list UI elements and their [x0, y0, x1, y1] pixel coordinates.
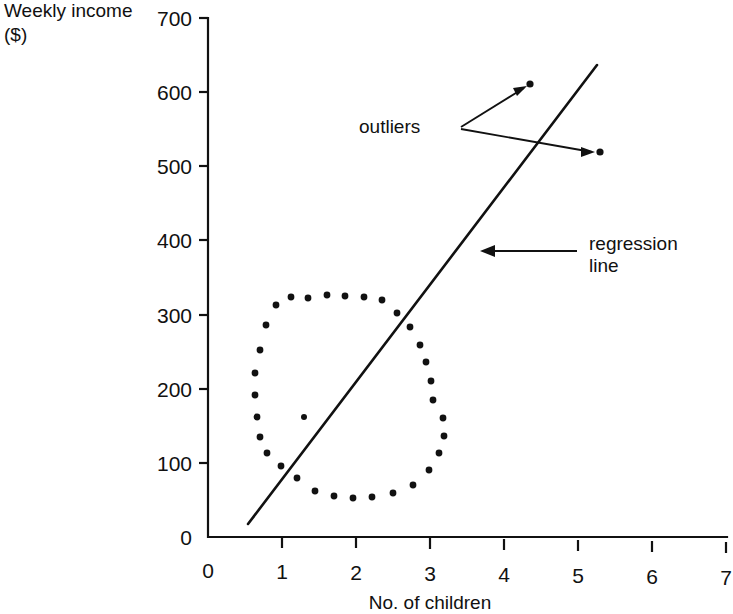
regression-line-arrowhead	[480, 245, 495, 257]
data-point	[394, 310, 401, 317]
data-point	[252, 392, 259, 399]
outliers-annotation: outliers	[359, 86, 595, 157]
data-point	[264, 450, 271, 457]
data-point	[390, 490, 397, 497]
data-point	[342, 293, 349, 300]
data-point	[426, 467, 433, 474]
y-tick-label-400: 400	[157, 229, 192, 252]
data-point	[254, 414, 261, 421]
x-axis-tick-labels: 0 1 2 3 4 5 6 7	[202, 559, 732, 589]
data-point	[263, 322, 270, 329]
y-tick-label-0: 0	[180, 526, 192, 549]
y-tick-label-100: 100	[157, 452, 192, 475]
axes-group	[208, 18, 727, 537]
data-point	[257, 347, 264, 354]
outliers-leader-lower	[461, 129, 592, 152]
x-tick-label-2: 2	[350, 561, 362, 584]
y-axis-title-line2: ($)	[4, 24, 27, 45]
data-point	[301, 414, 307, 420]
y-tick-label-300: 300	[157, 304, 192, 327]
data-point	[324, 292, 331, 299]
outliers-annotation-label: outliers	[359, 116, 420, 137]
data-point	[361, 294, 368, 301]
y-axis-ticks	[199, 18, 208, 463]
regression-line-label-line2: line	[589, 255, 619, 276]
data-point	[288, 294, 295, 301]
data-point	[417, 342, 424, 349]
y-axis-tick-labels: 700 600 500 400 300 200 100 0	[157, 7, 192, 549]
data-point	[312, 488, 319, 495]
chart-figure: 700 600 500 400 300 200 100 0 0 1 2 3 4 …	[0, 0, 733, 614]
x-axis-ticks	[282, 537, 726, 553]
x-axis-title: No. of children	[369, 592, 492, 613]
data-point	[410, 482, 417, 489]
x-tick-label-6: 6	[646, 565, 658, 588]
data-point	[369, 494, 376, 501]
data-point	[430, 397, 437, 404]
cluster-points-group	[252, 292, 448, 502]
x-tick-label-4: 4	[498, 563, 510, 586]
x-tick-label-1: 1	[276, 560, 288, 583]
outliers-leader-upper	[461, 88, 524, 127]
y-tick-label-700: 700	[157, 7, 192, 30]
x-tick-label-7: 7	[720, 566, 732, 589]
regression-line-annotation: regression line	[480, 233, 678, 276]
data-point	[436, 450, 443, 457]
data-point	[294, 475, 301, 482]
y-axis-title-line1: Weekly income	[4, 0, 132, 21]
data-point	[350, 495, 357, 502]
data-point	[428, 378, 435, 385]
data-point	[379, 297, 386, 304]
x-tick-label-5: 5	[572, 564, 584, 587]
y-tick-label-500: 500	[157, 155, 192, 178]
data-point	[278, 463, 285, 470]
data-point	[407, 324, 414, 331]
x-tick-label-0: 0	[202, 559, 214, 582]
data-point	[257, 434, 264, 441]
outlier-point-2	[596, 148, 603, 155]
outlier-point-1	[526, 80, 533, 87]
data-point	[305, 295, 312, 302]
data-point	[331, 493, 338, 500]
axis-spines	[208, 18, 727, 537]
data-point	[252, 370, 259, 377]
scatter-plot-svg: 700 600 500 400 300 200 100 0 0 1 2 3 4 …	[0, 0, 733, 614]
data-point	[440, 415, 447, 422]
y-tick-label-600: 600	[157, 81, 192, 104]
data-point	[441, 433, 448, 440]
x-tick-label-3: 3	[424, 562, 436, 585]
axis-titles: Weekly income ($) No. of children	[4, 0, 491, 613]
regression-line-label-line1: regression	[589, 233, 678, 254]
regression-line	[248, 65, 597, 524]
data-point	[423, 359, 430, 366]
y-tick-label-200: 200	[157, 378, 192, 401]
outliers-arrowhead-lower	[581, 147, 595, 157]
data-point	[273, 302, 280, 309]
